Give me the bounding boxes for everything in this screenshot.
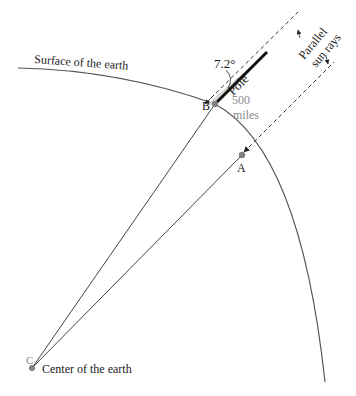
point-a-marker [239,152,245,158]
distance-unit: miles [233,108,259,122]
center-label: Center of the earth [42,362,132,376]
point-b-marker [212,101,218,107]
angle-label: 7.2° [214,56,235,71]
point-c-label: C [26,354,33,366]
sun-ray-lower [244,62,334,152]
sun-rays-dim-upper [298,30,300,38]
point-a-label: A [237,161,246,175]
radius-line-to-a [32,155,242,368]
distance-value: 500 [232,93,250,107]
point-b-label: B [202,99,210,113]
radius-line-to-b [32,104,215,368]
earth-circumference-diagram: 7.2° Pole Parallel sun rays 500 miles B … [0,0,356,396]
